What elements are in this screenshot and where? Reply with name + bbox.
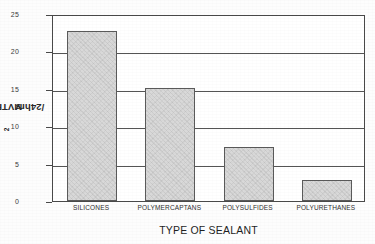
chart-figure: MVTR g/m2/24hrs 0510152025 SILICONESPOLY… — [0, 0, 375, 244]
y-tick-label: 15 — [11, 86, 19, 94]
bar-polymercaptans — [145, 88, 195, 201]
bar-polyurethanes — [302, 180, 352, 201]
y-tick-mark — [46, 202, 52, 203]
x-tick-label: POLYSULFIDES — [209, 204, 287, 211]
y-tick-label: 25 — [11, 11, 19, 19]
bar-silicones — [67, 31, 117, 201]
y-tick-label: 5 — [15, 161, 19, 169]
x-tick-label: SILICONES — [52, 204, 130, 211]
y-axis: 0510152025 — [0, 0, 52, 244]
y-tick-label: 10 — [11, 123, 19, 131]
bar-polysulfides — [224, 147, 274, 201]
y-tick-label: 20 — [11, 48, 19, 56]
plot-area — [52, 15, 365, 202]
x-tick-label: POLYURETHANES — [287, 204, 365, 211]
y-tick-label: 0 — [15, 198, 19, 206]
x-axis-title: TYPE OF SEALANT — [52, 224, 365, 236]
x-tick-label: POLYMERCAPTANS — [130, 204, 208, 211]
x-axis-tick-labels: SILICONESPOLYMERCAPTANSPOLYSULFIDESPOLYU… — [52, 204, 365, 216]
